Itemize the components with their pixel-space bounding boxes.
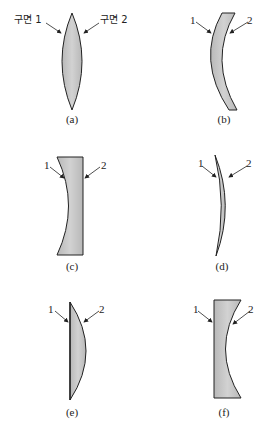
label-e-surface-1: 1: [48, 304, 54, 315]
label-c-surface-1: 1: [44, 160, 50, 171]
caption-b: (b): [218, 114, 231, 125]
lens-f-plano-concave: [198, 300, 250, 398]
lens-b-meniscus: [196, 13, 248, 110]
label-f-surface-1: 1: [193, 304, 199, 315]
arrow-surface-2: [229, 166, 247, 177]
label-a-surface-1: 구면 1: [14, 15, 42, 25]
caption-f: (f): [219, 407, 230, 418]
arrow-surface-2: [84, 311, 99, 322]
arrow-surface-1: [198, 311, 212, 322]
caption-a: (a): [66, 114, 78, 125]
label-b-surface-2: 2: [247, 15, 253, 26]
label-d-surface-1: 1: [198, 158, 204, 169]
label-b-surface-1: 1: [190, 15, 196, 26]
label-f-surface-2: 2: [248, 304, 254, 315]
label-e-surface-2: 2: [99, 304, 105, 315]
lens-diagram: [0, 0, 267, 426]
caption-c: (c): [66, 261, 78, 272]
label-c-surface-2: 2: [101, 160, 107, 171]
lens-d-meniscus-thin: [202, 155, 247, 256]
caption-e: (e): [66, 407, 78, 418]
label-d-surface-2: 2: [246, 158, 252, 169]
lens-c-plano-concave: [50, 157, 100, 255]
label-a-surface-2: 구면 2: [100, 15, 128, 25]
arrow-surface-1: [196, 22, 211, 33]
lens-a-biconvex: [46, 13, 99, 110]
arrow-surface-1: [202, 166, 216, 177]
arrow-surface-2: [230, 22, 248, 33]
arrow-surface-2: [84, 23, 99, 33]
caption-d: (d): [216, 261, 229, 272]
arrow-surface-2: [85, 167, 100, 178]
arrow-surface-1: [55, 311, 68, 322]
lens-e-plano-convex: [55, 302, 99, 400]
arrow-surface-1: [46, 23, 61, 33]
